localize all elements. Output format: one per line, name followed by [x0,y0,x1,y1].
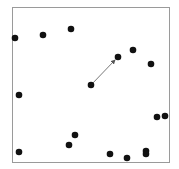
dot [72,132,79,139]
dot [66,142,73,149]
dot [154,114,161,121]
dot [124,155,131,162]
dot [143,151,150,158]
dot [12,35,19,42]
arrow-line [91,60,115,85]
dot [40,32,47,39]
dot [16,149,23,156]
scatter-diagram [0,0,179,169]
dot [162,113,169,120]
dot [130,47,137,54]
dot [115,54,122,61]
dot [88,82,95,89]
dot [107,151,114,158]
dot [148,61,155,68]
dot [16,92,23,99]
dot-group [12,26,169,162]
dot [68,26,75,33]
